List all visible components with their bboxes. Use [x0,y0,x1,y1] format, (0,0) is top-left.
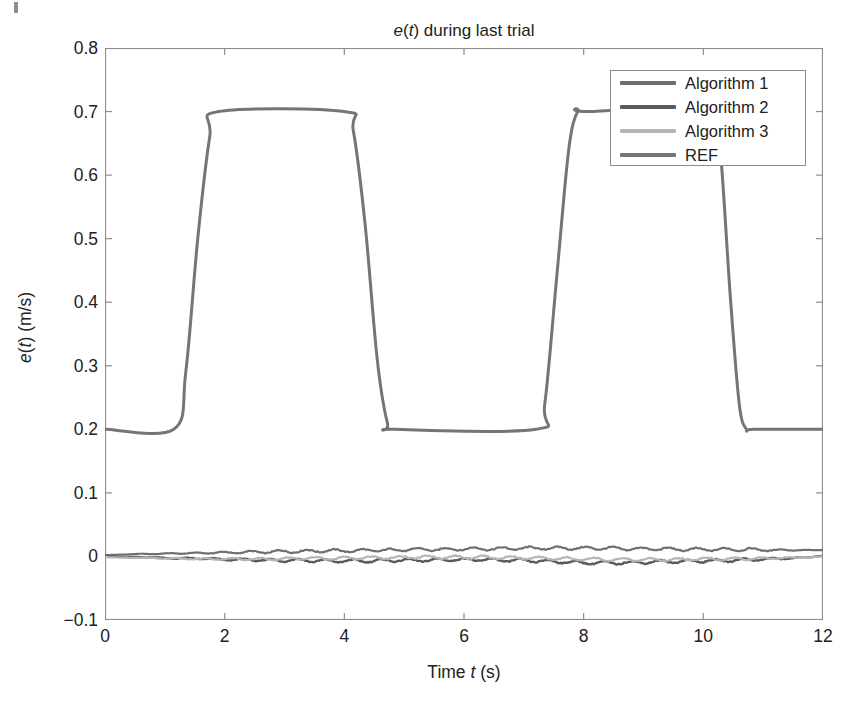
y-tick-label: 0.8 [26,38,98,59]
x-tick-label: 2 [195,626,255,647]
y-tick-label: 0.5 [26,228,98,249]
y-axis-label: e(t) (m/s) [15,198,36,458]
title-var-e: e [394,21,403,40]
chart-title: e(t) during last trial [105,21,823,41]
legend-item-label: REF [685,147,718,164]
ylabel-paren-open: ( [15,347,35,353]
y-tick-label: 0.4 [26,292,98,313]
ylabel-var-t: t [15,343,35,348]
legend-item-label: Algorithm 1 [685,75,768,92]
legend-line-swatch [620,129,676,133]
y-axis-label-wrapper: e(t) (m/s) [0,0,34,710]
x-tick-label: 8 [554,626,614,647]
x-tick-label: 6 [434,626,494,647]
xlabel-pre: Time [427,662,470,682]
legend-item-label: Algorithm 2 [685,99,768,116]
ylabel-units: ) (m/s) [15,292,35,343]
legend-item-label: Algorithm 3 [685,123,768,140]
ylabel-var-e: e [15,353,35,363]
x-axis-label: Time t (s) [105,662,823,683]
y-tick-label: 0.1 [26,482,98,503]
legend-item[interactable]: REF [611,143,805,167]
legend-line-swatch [620,105,676,109]
y-tick-label: 0.3 [26,355,98,376]
x-tick-label: 0 [75,626,135,647]
y-tick-label: 0.6 [26,165,98,186]
x-tick-label: 12 [793,626,853,647]
series-line [105,546,823,555]
y-tick-label: 0.7 [26,101,98,122]
x-tick-label: 4 [314,626,374,647]
legend-line-swatch [620,81,676,85]
legend-item[interactable]: Algorithm 1 [611,71,805,95]
legend-item[interactable]: Algorithm 3 [611,119,805,143]
data-series-group [105,108,823,565]
title-tail: ) during last trial [413,21,534,40]
x-axis-tick-labels: 024681012 [105,626,823,656]
legend-line-swatch [620,153,676,157]
legend-item[interactable]: Algorithm 2 [611,95,805,119]
y-tick-label: 0.2 [26,419,98,440]
figure-canvas: e(t) during last trial −0.100.10.20.30.4… [0,0,867,710]
xlabel-post: (s) [475,662,500,682]
x-tick-label: 10 [673,626,733,647]
chart-legend: Algorithm 1Algorithm 2Algorithm 3REF [610,70,806,166]
y-tick-label: 0 [26,546,98,567]
